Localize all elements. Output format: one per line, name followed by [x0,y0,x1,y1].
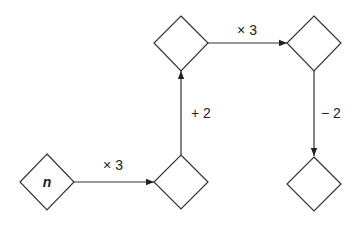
diamond-box5 [287,157,341,211]
diamond-box4 [287,16,341,71]
diamond-box2 [154,155,208,209]
edge-label-plus2: + 2 [191,105,211,121]
edge-label-times3-a: × 3 [103,157,123,173]
edge-label-minus2: − 2 [321,105,341,121]
node-label-start: n [43,174,52,190]
flow-diagram: n × 3 + 2 × 3 − 2 [0,0,364,233]
edge-label-times3-b: × 3 [237,22,257,38]
diamond-box3 [154,16,208,71]
